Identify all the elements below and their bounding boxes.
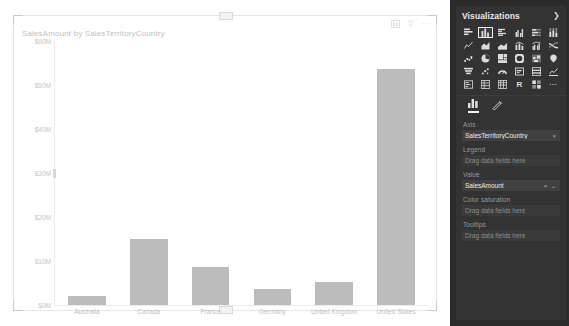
hundred-percent-stacked-bar-icon[interactable] (529, 27, 544, 38)
x-axis-label: Australia (56, 308, 118, 322)
field-well-placeholder: Drag data fields here (465, 232, 525, 239)
focus-mode-icon[interactable] (390, 19, 401, 29)
x-axis-label: France (180, 308, 242, 322)
x-axis-line (54, 305, 429, 306)
line-chart-icon[interactable] (461, 40, 476, 51)
visualization-type-gallery[interactable]: R⋯ (456, 25, 566, 93)
bar-slot[interactable] (303, 41, 365, 305)
matrix-icon[interactable] (495, 79, 510, 90)
slicer-icon[interactable] (461, 79, 476, 90)
field-chip-actions[interactable]: × ⌄ (544, 182, 557, 189)
python-visual-icon[interactable] (529, 79, 544, 90)
y-axis-tick: $20M (35, 214, 51, 221)
field-well-label: Axis (463, 121, 560, 128)
bar-chart-icon (468, 98, 479, 108)
visualizations-pane-title: Visualizations (462, 11, 520, 21)
funnel-chart-icon[interactable] (461, 66, 476, 77)
ribbon-chart-icon[interactable] (546, 40, 561, 51)
visualizations-pane[interactable]: Visualizations ❯ R⋯ AxisSalesTerritoryCo… (450, 0, 569, 326)
x-axis-label: United Kingdom (303, 308, 365, 322)
gauge-icon[interactable] (495, 66, 510, 77)
field-well-label: Value (463, 171, 560, 178)
field-chip-name: SalesTerritoryCountry (465, 132, 528, 139)
filter-icon[interactable] (405, 19, 416, 29)
scatter-chart-icon[interactable] (478, 66, 493, 77)
field-well-placeholder: Drag data fields here (465, 157, 525, 164)
hundred-percent-stacked-column-icon[interactable] (546, 27, 561, 38)
paint-roller-icon (492, 100, 503, 110)
y-axis-tick: $40M (35, 126, 51, 133)
field-chip-actions[interactable]: × (552, 133, 557, 139)
filled-map-icon[interactable] (546, 53, 561, 64)
visual-header-toolbar[interactable]: ⋯ (390, 18, 431, 30)
resize-corner-top-left[interactable] (13, 15, 23, 25)
bar-slot[interactable] (180, 41, 242, 305)
bar[interactable] (377, 69, 415, 305)
clustered-column-chart-icon[interactable] (512, 27, 527, 38)
field-well-label: Color saturation (463, 196, 560, 203)
chart-plot-area: $60M$50M$40M$30M$20M$10M$0M AustraliaCan… (22, 41, 429, 303)
bar[interactable] (192, 267, 230, 305)
x-axis: AustraliaCanadaFranceGermanyUnited Kingd… (56, 308, 427, 322)
x-axis-label: Canada (118, 308, 180, 322)
y-axis-tick: $60M (35, 38, 51, 45)
field-well-legend[interactable]: Drag data fields here (462, 155, 560, 166)
resize-handle-top[interactable] (219, 12, 233, 20)
r-script-visual-icon[interactable]: R (512, 79, 527, 90)
field-wells[interactable]: AxisSalesTerritoryCountry×LegendDrag dat… (456, 113, 566, 241)
donut-chart-icon[interactable] (512, 53, 527, 64)
field-well-color-saturation[interactable]: Drag data fields here (462, 205, 560, 216)
waterfall-chart-icon[interactable] (461, 53, 476, 64)
field-well-label: Legend (463, 146, 560, 153)
y-axis: $60M$50M$40M$30M$20M$10M$0M (22, 41, 54, 303)
field-well-value[interactable]: SalesAmount× ⌄ (462, 180, 560, 191)
line-stacked-column-icon[interactable] (512, 40, 527, 51)
clustered-bar-chart-icon[interactable] (495, 27, 510, 38)
more-options-icon[interactable]: ⋯ (420, 19, 431, 29)
treemap-icon[interactable] (495, 53, 510, 64)
field-well-axis[interactable]: SalesTerritoryCountry× (462, 130, 560, 141)
stacked-column-chart-icon[interactable] (478, 27, 493, 38)
visualizations-pane-header: Visualizations ❯ (456, 6, 566, 25)
visual-border-right (436, 24, 437, 302)
tab-fields[interactable] (468, 96, 479, 113)
area-chart-icon[interactable] (478, 40, 493, 51)
bar-slot[interactable] (118, 41, 180, 305)
bar-slot[interactable] (365, 41, 427, 305)
y-axis-tick: $50M (35, 82, 51, 89)
bar[interactable] (130, 239, 168, 305)
map-icon[interactable] (529, 53, 544, 64)
kpi-icon[interactable] (546, 66, 561, 77)
bar-series (56, 41, 427, 305)
field-well-placeholder: Drag data fields here (465, 207, 525, 214)
x-axis-label: United States (365, 308, 427, 322)
bar[interactable] (315, 282, 353, 305)
pie-chart-icon[interactable] (478, 53, 493, 64)
y-axis-tick: $0M (38, 302, 51, 309)
y-axis-tick: $10M (35, 258, 51, 265)
tab-format[interactable] (492, 98, 503, 112)
stacked-bar-chart-icon[interactable] (461, 27, 476, 38)
bar[interactable] (254, 289, 292, 305)
bar[interactable] (68, 296, 106, 305)
y-axis-tick: $30M (35, 170, 51, 177)
bar-slot[interactable] (56, 41, 118, 305)
field-well-label: Tooltips (463, 221, 560, 228)
field-chip-name: SalesAmount (465, 182, 504, 189)
card-icon[interactable] (512, 66, 527, 77)
chevron-right-icon[interactable]: ❯ (553, 11, 560, 20)
table-icon[interactable] (478, 79, 493, 90)
field-well-tooltips[interactable]: Drag data fields here (462, 230, 560, 241)
more-visuals-icon[interactable]: ⋯ (546, 79, 561, 90)
multi-row-card-icon[interactable] (529, 66, 544, 77)
bar-slot[interactable] (241, 41, 303, 305)
visual-border-left (13, 24, 14, 302)
visualizations-pane-inner: Visualizations ❯ R⋯ AxisSalesTerritoryCo… (456, 6, 566, 320)
y-axis-line (54, 41, 55, 305)
stacked-area-chart-icon[interactable] (495, 40, 510, 51)
bar-chart-visual[interactable]: ⋯ SalesAmount by SalesTerritoryCountry $… (13, 15, 437, 311)
x-axis-label: Germany (241, 308, 303, 322)
report-canvas[interactable]: ⋯ SalesAmount by SalesTerritoryCountry $… (0, 0, 450, 326)
visualizations-pane-tabs[interactable] (456, 95, 566, 113)
line-clustered-column-icon[interactable] (529, 40, 544, 51)
